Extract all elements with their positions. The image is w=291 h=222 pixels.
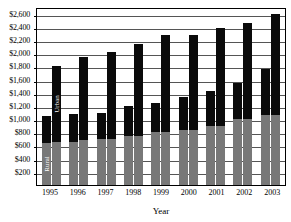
stacked-bar[interactable]	[179, 97, 188, 185]
urban-segment[interactable]	[216, 28, 225, 126]
rural-segment[interactable]	[161, 132, 170, 185]
y-axis-tick-label: $2,200	[9, 37, 30, 45]
bar-group-1999	[147, 9, 174, 185]
urban-segment[interactable]	[151, 103, 160, 132]
x-axis-labels: 199519961997199819992000200120022003	[36, 188, 286, 200]
urban-segment[interactable]	[69, 114, 78, 142]
y-axis-tick-label: $1,400	[9, 90, 30, 98]
bar-group-1995: RuralUrban	[38, 9, 65, 185]
bar-group-2001	[202, 9, 229, 185]
stacked-bar[interactable]	[206, 91, 215, 185]
y-axis-tick-label: $2,400	[9, 24, 30, 32]
urban-segment[interactable]	[271, 14, 280, 116]
x-axis-tick-label: 2002	[230, 188, 258, 200]
urban-segment[interactable]	[79, 57, 88, 140]
x-axis-tick-label: 2003	[258, 188, 286, 200]
urban-segment[interactable]	[134, 44, 143, 136]
stacked-bar[interactable]	[134, 44, 143, 185]
x-axis-tick-label: 2001	[203, 188, 231, 200]
stacked-bar[interactable]	[243, 23, 252, 185]
y-axis-tick-label: $1,800	[9, 63, 30, 71]
stacked-bar[interactable]	[124, 106, 133, 185]
stacked-bar[interactable]	[97, 113, 106, 186]
bar-group-2003	[257, 9, 284, 185]
y-axis-labels: $200$400$600$800$1,000$1,200$1,400$1,600…	[0, 8, 34, 186]
rural-segment[interactable]	[79, 140, 88, 185]
y-axis-tick-label: $200	[15, 169, 30, 177]
bar-group-1997	[93, 9, 120, 185]
urban-segment[interactable]	[261, 69, 270, 115]
y-axis-tick-label: $600	[15, 142, 30, 150]
urban-segment[interactable]	[42, 116, 51, 142]
stacked-bar[interactable]: Urban	[52, 66, 61, 185]
bar-chart: $200$400$600$800$1,000$1,200$1,400$1,600…	[0, 0, 291, 222]
urban-segment[interactable]: Urban	[52, 66, 61, 141]
urban-segment[interactable]	[189, 35, 198, 130]
rural-segment[interactable]	[271, 115, 280, 185]
x-axis-title: Year	[36, 206, 286, 216]
y-axis-tick-label: $1,600	[9, 77, 30, 85]
x-axis-tick-label: 1996	[64, 188, 92, 200]
bar-group-1998	[120, 9, 147, 185]
rural-segment[interactable]	[124, 136, 133, 185]
urban-series-label: Urban	[53, 95, 60, 113]
rural-segment[interactable]	[97, 139, 106, 185]
rural-segment[interactable]	[52, 142, 61, 186]
urban-segment[interactable]	[124, 106, 133, 136]
rural-segment[interactable]: Rural	[42, 143, 51, 185]
rural-segment[interactable]	[69, 142, 78, 186]
stacked-bar[interactable]	[107, 52, 116, 185]
rural-series-label: Rural	[43, 156, 50, 172]
rural-segment[interactable]	[189, 130, 198, 185]
x-axis-tick-label: 2000	[175, 188, 203, 200]
urban-segment[interactable]	[233, 83, 242, 119]
y-axis-tick-label: $2,000	[9, 50, 30, 58]
bar-groups: RuralUrban	[37, 9, 285, 185]
urban-segment[interactable]	[206, 91, 215, 125]
x-axis-tick-label: 1999	[147, 188, 175, 200]
rural-segment[interactable]	[233, 119, 242, 185]
y-axis-tick-label: $1,000	[9, 116, 30, 124]
y-axis-tick-label: $800	[15, 129, 30, 137]
rural-segment[interactable]	[243, 119, 252, 185]
urban-segment[interactable]	[97, 113, 106, 139]
stacked-bar[interactable]	[151, 103, 160, 185]
urban-segment[interactable]	[243, 23, 252, 119]
rural-segment[interactable]	[261, 115, 270, 185]
stacked-bar[interactable]	[79, 57, 88, 185]
x-axis-tick-label: 1998	[119, 188, 147, 200]
bar-group-1996	[65, 9, 92, 185]
y-axis-tick-label: $2,600	[9, 11, 30, 19]
stacked-bar[interactable]	[233, 83, 242, 185]
bar-group-2000	[175, 9, 202, 185]
plot-area: RuralUrban	[36, 8, 286, 186]
stacked-bar[interactable]	[161, 35, 170, 185]
stacked-bar[interactable]	[261, 69, 270, 185]
stacked-bar[interactable]	[189, 35, 198, 185]
x-axis-tick-label: 1995	[36, 188, 64, 200]
rural-segment[interactable]	[206, 126, 215, 185]
stacked-bar[interactable]	[69, 114, 78, 185]
urban-segment[interactable]	[107, 52, 116, 139]
y-axis-tick-label: $400	[15, 156, 30, 164]
stacked-bar[interactable]	[271, 14, 280, 185]
x-axis-tick-label: 1997	[92, 188, 120, 200]
rural-segment[interactable]	[216, 126, 225, 185]
urban-segment[interactable]	[179, 97, 188, 130]
rural-segment[interactable]	[151, 132, 160, 185]
stacked-bar[interactable]: Rural	[42, 116, 51, 185]
bar-group-2002	[229, 9, 256, 185]
rural-segment[interactable]	[107, 139, 116, 185]
rural-segment[interactable]	[134, 136, 143, 185]
urban-segment[interactable]	[161, 35, 170, 133]
stacked-bar[interactable]	[216, 28, 225, 185]
y-axis-tick-label: $1,200	[9, 103, 30, 111]
rural-segment[interactable]	[179, 130, 188, 185]
